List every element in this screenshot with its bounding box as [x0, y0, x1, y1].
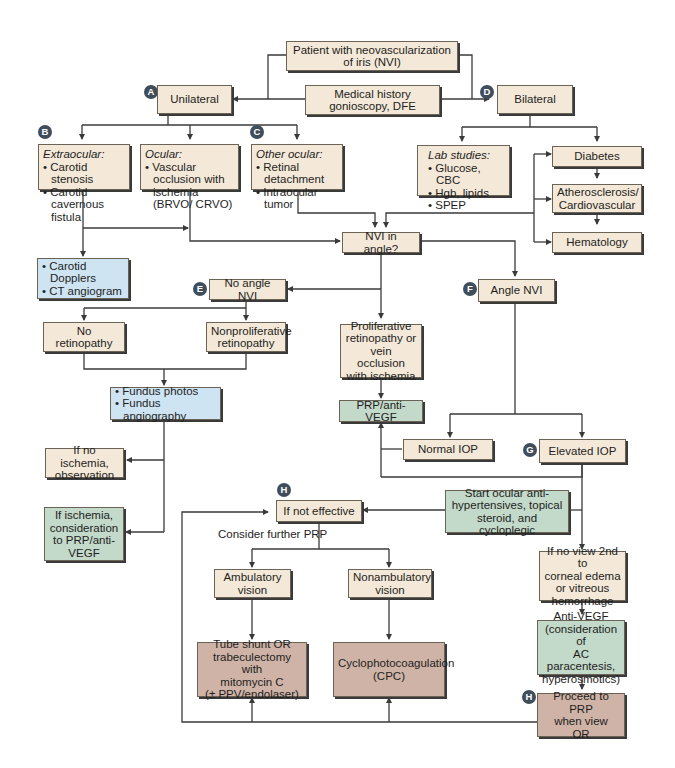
line: of iris (NVI)	[291, 56, 453, 69]
line: Patient with neovascularization	[291, 44, 453, 57]
line: NVI in angle?	[347, 230, 415, 255]
line: If no view 2nd to	[544, 545, 621, 570]
header: Ocular:	[145, 148, 234, 161]
node-fundus-tests: • Fundus photos • Fundus angiography	[110, 387, 221, 420]
bullet: • SPEP	[428, 199, 505, 212]
line: Tube shunt OR	[202, 638, 302, 651]
node-normal-iop: Normal IOP	[403, 439, 493, 460]
bullet: • Intraocular tumor	[256, 186, 338, 211]
line: with ischemia	[345, 370, 417, 383]
line: hemorrhage	[544, 595, 621, 608]
badge-a: A	[144, 85, 158, 99]
line: vision	[353, 584, 427, 597]
line: corneal edema	[544, 570, 621, 583]
node-ambulatory: Ambulatory vision	[214, 569, 291, 598]
line: Hematology	[557, 236, 637, 249]
bullet: • Hgb, lipids	[428, 187, 505, 200]
line: If ischemia,	[49, 509, 119, 522]
node-proceed-prp: Proceed to PRP when view OR	[537, 693, 625, 737]
line: (± PPV/endolaser)	[202, 688, 302, 701]
bullet: • Carotid stenosis	[43, 161, 125, 186]
bullet: • Retinal detachment	[256, 161, 338, 186]
line: Cyclophotocoagulation	[338, 657, 440, 670]
node-if-not-effective: If not effective	[276, 500, 362, 522]
line: Medical history	[310, 88, 435, 101]
line: Nonproliferative	[211, 325, 281, 338]
nvi-flowchart: A B C D E F G H H Patient with neovascul…	[0, 0, 675, 768]
bullet: • CT angiogram	[42, 285, 124, 298]
line: observation	[50, 469, 119, 482]
badge-d: D	[480, 85, 494, 99]
line: Cardiovascular	[557, 199, 637, 212]
line: Bilateral	[502, 93, 568, 106]
badge-h-bottom: H	[522, 690, 536, 704]
line: consideration	[49, 522, 119, 535]
line: Proliferative	[345, 320, 417, 333]
bullet: • Carotid Dopplers	[42, 260, 124, 285]
badge-b: B	[38, 125, 52, 139]
node-elevated-iop: Elevated IOP	[539, 439, 626, 463]
node-unilateral: Unilateral	[157, 85, 232, 114]
node-hematology: Hematology	[552, 232, 642, 253]
node-lab-studies: Lab studies: • Glucose, CBC • Hgb, lipid…	[417, 145, 510, 196]
line: Unilateral	[162, 93, 227, 106]
node-cpc: Cyclophotocoagulation (CPC)	[333, 642, 445, 697]
node-no-retinopathy: No retinopathy	[43, 322, 125, 352]
line: Angle NVI	[483, 284, 550, 297]
line: (consideration of	[542, 623, 620, 648]
line: If not effective	[281, 505, 357, 518]
line: or vitreous	[544, 582, 621, 595]
node-tube-shunt: Tube shunt OR trabeculectomy with mitomy…	[197, 642, 307, 697]
line: PRP/anti-VEGF	[344, 399, 418, 424]
node-no-angle-nvi: No angle NVI	[209, 279, 286, 300]
line: Anti-VEGF	[542, 610, 620, 623]
line: Nonambulatory	[353, 571, 427, 584]
line: vision	[219, 584, 286, 597]
badge-e: E	[193, 282, 207, 296]
line: retinopathy	[211, 337, 281, 350]
node-nonproliferative: Nonproliferative retinopathy	[206, 322, 286, 352]
node-prp-anti-vegf: PRP/anti-VEGF	[339, 400, 423, 422]
node-ocular: Ocular: • Vascular occlusion with ischem…	[140, 144, 239, 190]
badge-c: C	[250, 125, 264, 139]
badge-h-top: H	[277, 483, 291, 497]
node-extraocular: Extraocular: • Carotid stenosis • Caroti…	[38, 144, 130, 190]
header: Other ocular:	[256, 148, 338, 161]
line: VEGF	[49, 547, 119, 560]
line: Diabetes	[557, 150, 637, 163]
node-anti-vegf: Anti-VEGF (consideration of AC paracente…	[537, 620, 625, 675]
line: steroid, and cycloplegic	[450, 512, 564, 537]
node-nonambulatory: Nonambulatory vision	[348, 569, 432, 598]
line: No angle NVI	[214, 277, 281, 302]
line: Normal IOP	[408, 443, 488, 456]
node-patient-nvi: Patient with neovascularization of iris …	[286, 41, 458, 71]
node-atherosclerosis: Atherosclerosis/ Cardiovascular	[552, 184, 642, 213]
node-nvi-in-angle: NVI in angle?	[342, 232, 420, 253]
bullet: • Glucose, CBC	[428, 162, 505, 187]
line: No retinopathy	[48, 325, 120, 350]
badge-f: F	[463, 282, 477, 296]
line: vein occlusion	[345, 345, 417, 370]
line: Ambulatory	[219, 571, 286, 584]
line: Elevated IOP	[544, 445, 621, 458]
node-no-ischemia: If no ischemia, observation	[45, 448, 124, 478]
bullet: • Fundus angiography	[115, 397, 216, 422]
line: hyperosmotics)	[542, 673, 620, 686]
node-bilateral: Bilateral	[497, 85, 573, 114]
line: AC paracentesis,	[542, 648, 620, 673]
node-angle-nvi: Angle NVI	[478, 279, 555, 302]
line: trabeculectomy with	[202, 651, 302, 676]
node-proliferative: Proliferative retinopathy or vein occlus…	[340, 324, 422, 378]
node-diabetes: Diabetes	[552, 146, 642, 167]
node-medical-history: Medical history gonioscopy, DFE	[305, 85, 440, 115]
node-no-view: If no view 2nd to corneal edema or vitre…	[539, 551, 626, 601]
node-carotid-tests: • Carotid Dopplers • CT angiogram	[37, 258, 129, 299]
line: If no ischemia,	[50, 444, 119, 469]
line: gonioscopy, DFE	[310, 100, 435, 113]
node-other-ocular: Other ocular: • Retinal detachment • Int…	[251, 144, 343, 190]
line: mitomycin C	[202, 676, 302, 689]
line: retinopathy or	[345, 332, 417, 345]
badge-g: G	[523, 443, 537, 457]
node-if-ischemia: If ischemia, consideration to PRP/anti- …	[44, 507, 124, 561]
line: hypertensives, topical	[450, 499, 564, 512]
